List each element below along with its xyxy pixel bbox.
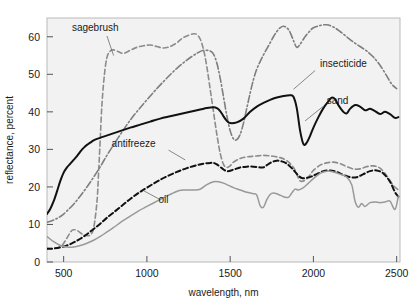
x-axis-tick-label: 1000 xyxy=(135,267,159,279)
x-axis-tick-label: 500 xyxy=(55,267,73,279)
y-axis-tick-label: 0 xyxy=(34,256,40,268)
plot-area-background xyxy=(47,18,400,262)
y-axis-tick-label: 50 xyxy=(28,68,40,80)
series-label-antifreeze: antifreeze xyxy=(112,138,156,149)
series-label-sagebrush: sagebrush xyxy=(72,22,119,33)
chart-canvas: 01020304050605001000150020002500waveleng… xyxy=(0,0,410,304)
y-axis-tick-label: 20 xyxy=(28,181,40,193)
series-label-sand: sand xyxy=(327,95,349,106)
x-axis-title: wavelength, nm xyxy=(187,287,258,298)
x-axis-tick-label: 2000 xyxy=(302,267,326,279)
x-axis-tick-label: 2500 xyxy=(385,267,409,279)
y-axis-tick-label: 60 xyxy=(28,31,40,43)
x-axis-tick-label: 1500 xyxy=(218,267,242,279)
y-axis-tick-label: 30 xyxy=(28,143,40,155)
series-label-oil: oil xyxy=(159,194,169,205)
y-axis-tick-label: 10 xyxy=(28,218,40,230)
spectral-reflectance-chart: 01020304050605001000150020002500waveleng… xyxy=(0,0,410,304)
y-axis-tick-label: 40 xyxy=(28,106,40,118)
y-axis-title: reflectance, percent xyxy=(4,96,15,184)
series-label-insecticide: insecticide xyxy=(320,58,367,69)
